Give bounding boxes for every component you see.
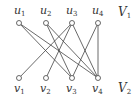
node-u2 <box>44 21 49 26</box>
label-v4: v4 <box>92 82 103 96</box>
edge-u2-v4 <box>46 23 98 78</box>
label-u1: u1 <box>14 4 26 18</box>
edge-u1-v4 <box>19 23 98 78</box>
label-u4: u4 <box>92 4 104 18</box>
set-label-v1: V1 <box>118 5 131 20</box>
label-u2: u2 <box>40 4 52 18</box>
node-u4 <box>96 21 101 26</box>
node-v3 <box>70 76 75 81</box>
node-v2 <box>44 76 49 81</box>
label-v3: v3 <box>66 82 77 96</box>
label-v2: v2 <box>40 82 51 96</box>
edges <box>19 23 98 78</box>
node-u3 <box>70 21 75 26</box>
label-v1: v1 <box>14 82 25 96</box>
label-u3: u3 <box>66 4 78 18</box>
node-u1 <box>17 21 22 26</box>
node-v4 <box>96 76 101 81</box>
set-label-v2: V2 <box>118 81 131 96</box>
bipartite-graph: u1u2u3u4v1v2v3v4 V1 V2 <box>0 0 140 98</box>
node-v1 <box>17 76 22 81</box>
